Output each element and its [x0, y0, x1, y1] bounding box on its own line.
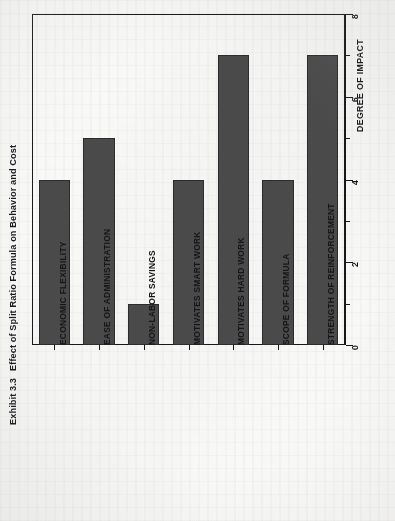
category-label: MOTIVATES HARD WORK	[236, 237, 246, 345]
value-axis: 02468	[345, 14, 346, 345]
axis-tick-minor	[346, 55, 350, 56]
axis-tick-label: 2	[350, 262, 360, 267]
exhibit-title-text: Effect of Split Ratio Formula on Behavio…	[8, 145, 18, 371]
category-tick	[99, 345, 100, 350]
exhibit-title: Exhibit 3.3Effect of Split Ratio Formula…	[8, 105, 18, 425]
axis-tick-label: 4	[350, 180, 360, 185]
category-tick	[233, 345, 234, 350]
category-label: NON-LABOR SAVINGS	[147, 250, 157, 345]
category-tick	[278, 345, 279, 350]
category-label: ECONOMIC FLEXIBILITY	[58, 241, 68, 345]
scanned-page: Exhibit 3.3Effect of Split Ratio Formula…	[0, 0, 395, 521]
axis-tick-minor	[346, 138, 350, 139]
category-label: SCOPE OF FORMULA	[281, 254, 291, 345]
category-label: MOTIVATES SMART WORK	[192, 231, 202, 345]
category-label: EASE OF ADMINISTRATION	[102, 229, 112, 345]
category-tick	[323, 345, 324, 350]
category-tick	[189, 345, 190, 350]
axis-tick-minor	[346, 304, 350, 305]
category-tick	[54, 345, 55, 350]
bar-series	[32, 14, 345, 345]
axis-tick-label: 0	[350, 345, 360, 350]
category-tick	[144, 345, 145, 350]
exhibit-number: Exhibit 3.3	[8, 378, 18, 425]
value-axis-title: DEGREE OF IMPACT	[355, 39, 365, 132]
category-label: STRENGTH OF REINFORCEMENT	[326, 203, 336, 345]
axis-tick-minor	[346, 221, 350, 222]
axis-tick-label: 8	[350, 14, 360, 19]
